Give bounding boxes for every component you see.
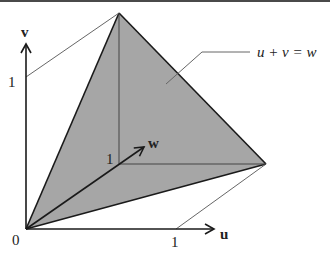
w-tick-label: 1: [106, 151, 114, 167]
u-axis-label: u: [220, 226, 228, 242]
diagram-canvas: v 1 u 1 w 1 0 u + v = w: [0, 0, 330, 257]
v-tick-label: 1: [8, 74, 16, 90]
plane-equation-label: u + v = w: [257, 44, 316, 60]
origin-label: 0: [12, 232, 20, 248]
v-axis-label: v: [21, 24, 29, 40]
u-tick-label: 1: [171, 234, 179, 250]
w-axis-label: w: [148, 135, 159, 151]
